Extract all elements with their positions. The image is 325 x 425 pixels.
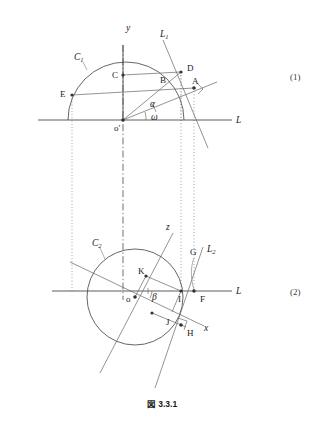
point-K (144, 274, 147, 277)
point-H (179, 323, 183, 327)
label-angle-alpha: α (150, 99, 156, 109)
label-axis-x: x (203, 323, 209, 333)
point-A (192, 86, 196, 90)
point-D (179, 70, 182, 73)
line-L1 (163, 40, 208, 148)
segment-o-K (135, 276, 146, 297)
label-point-H: H (187, 328, 194, 338)
label-L-upper: L (235, 115, 241, 125)
segment-E-A (72, 88, 194, 95)
ray-oprime-A (123, 82, 217, 120)
panel-number-1: (1) (290, 72, 301, 82)
projection-lines (72, 45, 194, 300)
panel-1-group: C1 y L1 C B D A E o′ α ω L (1) (38, 23, 301, 148)
geometry-figure: C1 y L1 C B D A E o′ α ω L (1) (0, 0, 325, 425)
label-point-D: D (187, 63, 194, 73)
segment-K-I (146, 276, 181, 291)
leader-c2 (100, 248, 105, 259)
label-point-C: C (112, 70, 118, 80)
label-c2: C2 (92, 238, 102, 249)
figure-caption: 図 3.3.1 (147, 399, 178, 409)
point-E (70, 93, 73, 96)
curve-c1 (68, 62, 184, 120)
label-angle-omega: ω (151, 112, 158, 122)
leader-c1 (83, 62, 87, 70)
label-point-G: G (190, 247, 197, 257)
label-L1: L1 (159, 29, 169, 40)
axis-x (70, 262, 204, 326)
point-F (192, 289, 196, 293)
segment-C-D (123, 72, 181, 75)
label-c1: C1 (74, 52, 84, 63)
label-point-F: F (200, 294, 205, 304)
label-axis-z: z (165, 222, 170, 232)
label-L2: L2 (206, 244, 216, 255)
panel-number-2: (2) (290, 287, 301, 297)
label-axis-y: y (125, 23, 131, 33)
panel-2-group: C2 z x L2 K I J H G F o β L (2) (52, 222, 301, 388)
label-point-J: J (166, 317, 170, 327)
point-C (121, 73, 124, 76)
axis-z (100, 233, 173, 373)
label-origin-upper: o′ (114, 123, 121, 133)
label-L-lower: L (235, 286, 241, 296)
label-point-A: A (192, 76, 199, 86)
label-point-K: K (138, 266, 145, 276)
label-angle-beta: β (151, 292, 157, 302)
figure-container: C1 y L1 C B D A E o′ α ω L (1) (0, 0, 325, 425)
angle-arc-omega (145, 112, 146, 120)
label-origin-lower: o (126, 294, 131, 304)
point-origin-upper (121, 118, 125, 122)
point-I (179, 289, 182, 292)
label-point-I: I (178, 294, 181, 304)
label-point-B: B (160, 75, 166, 85)
point-J (150, 311, 153, 314)
point-origin-lower (133, 295, 137, 299)
label-point-E: E (60, 89, 66, 99)
